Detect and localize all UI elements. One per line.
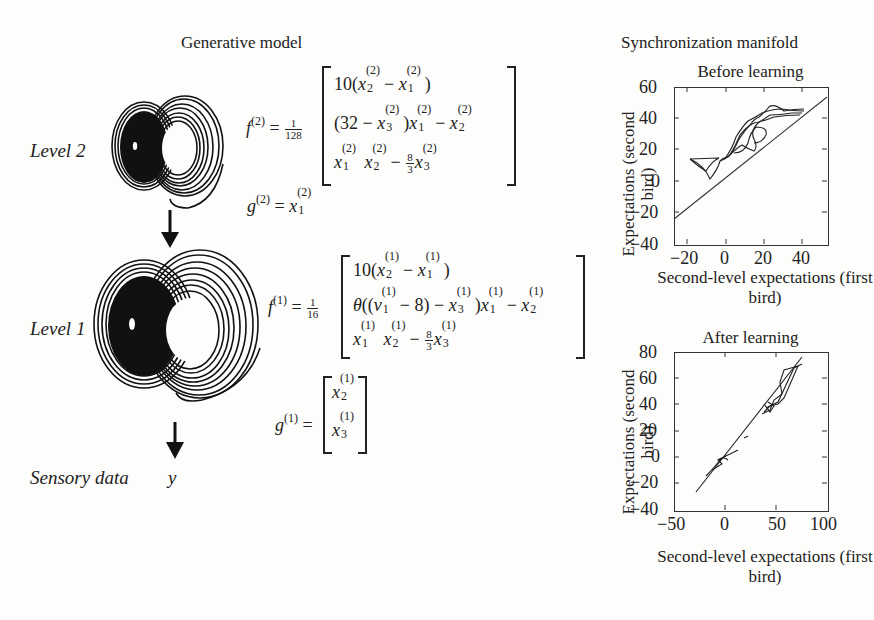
chart-before-ytick: 40 xyxy=(639,108,657,129)
chart-after-ytick: 0 xyxy=(651,446,660,467)
arrow-level1-to-sensory-icon xyxy=(165,422,185,462)
f1-row-3: x(1)1 x(1)2− 83x(1)3 xyxy=(353,327,460,352)
chart-before-xtick: 40 xyxy=(792,248,810,269)
g1-row-1: x(1)2 xyxy=(332,380,358,403)
g1-row-2: x(1)3 xyxy=(332,418,358,441)
chart-after-title: After learning xyxy=(674,328,827,348)
level-2-label: Level 2 xyxy=(30,140,85,162)
chart-before-data xyxy=(674,87,828,245)
chart-before-xtick: 0 xyxy=(720,248,729,269)
level-2-lorenz-attractor xyxy=(110,94,230,212)
chart-before-ytick: −40 xyxy=(630,234,658,255)
chart-before-xtick: −20 xyxy=(670,248,698,269)
chart-after-ytick: 20 xyxy=(639,420,657,441)
g2-equation: g(2) = x(2)1 xyxy=(247,192,315,217)
chart-before-xlabel: Second-level expectations (first bird) xyxy=(645,268,874,308)
generative-model-heading: Generative model xyxy=(181,33,302,53)
sensory-data-label: Sensory data xyxy=(30,467,129,489)
arrow-level2-to-level1-icon xyxy=(160,210,180,250)
chart-after-ytick: 40 xyxy=(639,394,657,415)
f1-row-2: θ((v(1)1− 8) − x(1)3)x(1)1− x(1)2 xyxy=(353,293,547,316)
chart-after-ytick: −20 xyxy=(630,472,658,493)
level-1-lorenz-attractor xyxy=(92,248,264,406)
chart-after-xtick: 0 xyxy=(720,514,729,535)
chart-after-ytick: 60 xyxy=(639,368,657,389)
f2-matrix: 10(x(2)2− x(2)1) (32 − x(2)3)x(2)1− x(2)… xyxy=(322,66,516,186)
chart-after-xlabel: Second-level expectations (first bird) xyxy=(645,547,874,587)
chart-after-xtick: 100 xyxy=(810,514,837,535)
chart-before-ytick: 60 xyxy=(639,77,657,98)
f1-matrix: 10(x(1)2− x(1)1) θ((v(1)1− 8) − x(1)3)x(… xyxy=(341,255,585,359)
chart-after-data xyxy=(674,352,828,511)
f2-row-3: x(2)1 x(2)2− 83x(2)3 xyxy=(334,150,441,175)
f2-lhs: f(2) = 1128 xyxy=(246,114,303,141)
chart-after-ytick: 80 xyxy=(639,342,657,363)
chart-before-title: Before learning xyxy=(674,62,827,82)
f2-row-1: 10(x(2)2− x(2)1) xyxy=(334,72,431,95)
chart-before-ytick: 20 xyxy=(639,139,657,160)
chart-after-xtick: −50 xyxy=(657,514,685,535)
f1-lhs: f(1) = 116 xyxy=(268,293,319,320)
f2-row-2: (32 − x(2)3)x(2)1− x(2)2 xyxy=(334,111,476,134)
chart-before-ytick: −20 xyxy=(630,202,658,223)
chart-before-ytick: 0 xyxy=(651,171,660,192)
f1-row-1: 10(x(1)2− x(1)1) xyxy=(353,258,450,281)
chart-after-xtick: 50 xyxy=(768,514,786,535)
g1-vector: x(1)2 x(1)3 xyxy=(323,376,367,454)
chart-before-xtick: 20 xyxy=(754,248,772,269)
g1-lhs: g(1) = xyxy=(275,411,313,436)
chart-after-ytick: −40 xyxy=(630,499,658,520)
synchronization-manifold-heading: Synchronization manifold xyxy=(621,33,798,53)
sensory-data-symbol: y xyxy=(168,467,176,489)
level-1-label: Level 1 xyxy=(30,318,85,340)
